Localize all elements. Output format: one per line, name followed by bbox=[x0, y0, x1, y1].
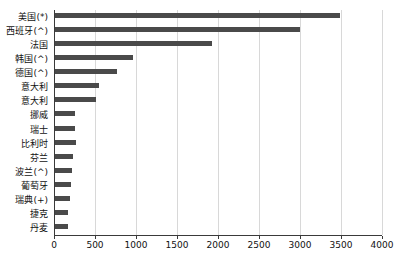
tick-label: 4000 bbox=[371, 240, 394, 250]
category-label: 西班牙(^) bbox=[0, 24, 50, 38]
category-label: 美国(*) bbox=[0, 10, 50, 24]
tick-mark bbox=[136, 236, 137, 239]
tick-label: 1500 bbox=[166, 240, 189, 250]
bar-row bbox=[54, 179, 382, 193]
category-label: 意大利 bbox=[0, 80, 50, 94]
tick-label: 2000 bbox=[207, 240, 230, 250]
bar-row bbox=[54, 108, 382, 122]
bar-row bbox=[54, 165, 382, 179]
category-label: 波兰(^) bbox=[0, 165, 50, 179]
bar bbox=[54, 154, 73, 159]
bar-row bbox=[54, 24, 382, 38]
bar-row bbox=[54, 38, 382, 52]
category-label: 挪威 bbox=[0, 108, 50, 122]
bar-row bbox=[54, 66, 382, 80]
category-label: 捷克 bbox=[0, 207, 50, 221]
bars-layer bbox=[54, 10, 382, 235]
tick-label: 500 bbox=[86, 240, 103, 250]
horizontal-bar-chart: 美国(*)西班牙(^)法国韩国(^)德国(^)意大利意大利挪威瑞士比利时芬兰波兰… bbox=[0, 0, 408, 263]
bar bbox=[54, 210, 68, 215]
bar bbox=[54, 27, 300, 32]
bar-row bbox=[54, 151, 382, 165]
tick-label: 3000 bbox=[289, 240, 312, 250]
bar bbox=[54, 111, 75, 116]
category-label: 瑞典(+) bbox=[0, 193, 50, 207]
y-axis-line bbox=[54, 10, 55, 235]
tick-label: 2500 bbox=[248, 240, 271, 250]
bar bbox=[54, 182, 71, 187]
bar-row bbox=[54, 193, 382, 207]
tick-label: 0 bbox=[51, 240, 57, 250]
bar bbox=[54, 168, 72, 173]
tick-mark bbox=[177, 236, 178, 239]
tick-mark bbox=[382, 236, 383, 239]
bar bbox=[54, 41, 212, 46]
tick-mark bbox=[218, 236, 219, 239]
tick-mark bbox=[341, 236, 342, 239]
bar bbox=[54, 97, 96, 102]
bar-row bbox=[54, 221, 382, 235]
tick-mark bbox=[54, 236, 55, 239]
category-label: 葡萄牙 bbox=[0, 179, 50, 193]
bar bbox=[54, 196, 70, 201]
bar bbox=[54, 69, 117, 74]
bar-row bbox=[54, 123, 382, 137]
bar-row bbox=[54, 80, 382, 94]
category-label: 法国 bbox=[0, 38, 50, 52]
tick-mark bbox=[259, 236, 260, 239]
category-label: 丹麦 bbox=[0, 221, 50, 235]
plot-area bbox=[54, 10, 382, 235]
bar bbox=[54, 126, 75, 131]
bar bbox=[54, 83, 99, 88]
bar bbox=[54, 140, 76, 145]
category-label: 韩国(^) bbox=[0, 52, 50, 66]
tick-label: 1000 bbox=[125, 240, 148, 250]
category-label: 芬兰 bbox=[0, 151, 50, 165]
bar bbox=[54, 13, 340, 18]
bar bbox=[54, 55, 133, 60]
tick-label: 3500 bbox=[330, 240, 353, 250]
category-label: 瑞士 bbox=[0, 123, 50, 137]
bar bbox=[54, 224, 68, 229]
x-axis-ticks: 05001000150020002500300035004000 bbox=[54, 236, 382, 258]
bar-row bbox=[54, 94, 382, 108]
category-label: 德国(^) bbox=[0, 66, 50, 80]
category-label: 意大利 bbox=[0, 94, 50, 108]
bar-row bbox=[54, 10, 382, 24]
tick-mark bbox=[95, 236, 96, 239]
category-axis-labels: 美国(*)西班牙(^)法国韩国(^)德国(^)意大利意大利挪威瑞士比利时芬兰波兰… bbox=[0, 10, 50, 235]
tick-mark bbox=[300, 236, 301, 239]
gridline bbox=[382, 10, 383, 235]
bar-row bbox=[54, 207, 382, 221]
bar-row bbox=[54, 137, 382, 151]
bar-row bbox=[54, 52, 382, 66]
category-label: 比利时 bbox=[0, 137, 50, 151]
